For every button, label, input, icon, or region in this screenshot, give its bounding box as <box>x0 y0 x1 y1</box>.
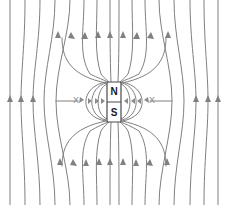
arrowhead-up <box>70 159 77 166</box>
flux-arc-top-right-outer <box>122 38 166 83</box>
arrowhead-up <box>215 95 221 102</box>
arrowhead-up <box>146 159 153 166</box>
flux-line-3 <box>33 0 40 205</box>
flux-line-6 <box>83 0 109 82</box>
arrowhead-up <box>165 31 171 38</box>
flux-line-s4 <box>118 122 119 205</box>
flux-line-8 <box>110 0 111 82</box>
north-outer-fan <box>62 38 166 83</box>
arrowhead-up <box>81 32 88 39</box>
arrowhead-up <box>55 31 61 38</box>
arrowhead-up <box>18 95 24 102</box>
arrowhead-up <box>133 159 139 166</box>
arrowhead-left <box>131 98 135 104</box>
neutral-point-right-label: X <box>149 95 155 105</box>
arrowhead-up <box>95 31 101 38</box>
flux-line-15 <box>204 0 208 205</box>
arrowhead-up <box>147 32 154 39</box>
bottom-arrow-row <box>57 158 170 166</box>
north-pole-label: N <box>110 86 117 97</box>
neutral-point-left-label: X <box>73 95 79 105</box>
flux-line-9 <box>118 0 119 82</box>
flux-line-11 <box>121 0 147 82</box>
arrowhead-up <box>83 159 89 166</box>
arrowhead-down-left <box>79 97 84 103</box>
arrowhead-right <box>101 98 105 104</box>
bar-magnet[interactable]: N S <box>107 82 121 122</box>
arrowhead-up <box>205 95 211 102</box>
arrowhead-up <box>107 158 113 165</box>
arrowhead-up <box>7 95 13 102</box>
north-inflow-right <box>118 0 147 82</box>
flux-line-10 <box>120 0 133 82</box>
arrowhead-left <box>137 98 141 104</box>
arrowhead-up <box>107 31 113 38</box>
south-pole-label: S <box>111 107 118 118</box>
arrowhead-up <box>120 158 126 165</box>
flux-line-4 <box>44 0 55 205</box>
arrowhead-up <box>30 95 36 102</box>
flux-line-2 <box>21 0 25 205</box>
arrowhead-left <box>124 98 128 104</box>
north-inflow-left <box>83 0 112 82</box>
arrowhead-up <box>133 32 140 39</box>
arrowhead-up <box>68 32 75 39</box>
arrowhead-up <box>120 31 126 38</box>
flux-line-13 <box>174 0 184 205</box>
field-line-canvas: N S X X <box>0 0 228 205</box>
top-arrow-row <box>55 31 171 39</box>
magnetic-field-diagram: N S X X <box>0 0 228 205</box>
flux-line-5 <box>56 0 70 205</box>
arrowhead-up <box>193 95 199 102</box>
flux-line-14 <box>190 0 196 205</box>
flux-line-7 <box>96 0 109 82</box>
arrowhead-up <box>164 158 170 165</box>
flux-line-12 <box>159 0 172 205</box>
